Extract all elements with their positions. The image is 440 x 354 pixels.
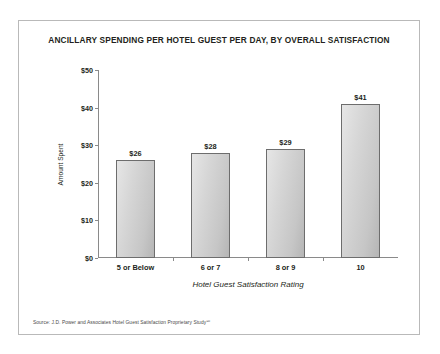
plot-area: $0$10$20$30$40$50 $265 or Below$286 or 7… (98, 70, 398, 258)
y-tick-label: $20 (81, 178, 93, 187)
bar-value-label: $29 (279, 138, 291, 147)
chart-figure: ANCILLARY SPENDING PER HOTEL GUEST PER D… (18, 20, 420, 335)
chart-title: ANCILLARY SPENDING PER HOTEL GUEST PER D… (19, 35, 419, 45)
y-tick-mark (95, 70, 98, 71)
bar-value-label: $41 (354, 93, 366, 102)
x-tick-label: 5 or Below (117, 263, 154, 272)
source-note: Source: J.D. Power and Associates Hotel … (33, 319, 211, 325)
bar[interactable] (341, 104, 380, 258)
y-tick-mark (95, 220, 98, 221)
x-tick-label: 8 or 9 (276, 263, 296, 272)
x-tick-mark (323, 258, 324, 261)
bar-group[interactable]: $265 or Below (116, 160, 155, 258)
x-axis-title: Hotel Guest Satisfaction Rating (98, 280, 398, 289)
y-tick-label: $0 (85, 254, 93, 263)
y-axis-line (98, 70, 99, 258)
x-tick-label: 10 (356, 263, 364, 272)
x-tick-label: 6 or 7 (201, 263, 221, 272)
bar-value-label: $26 (129, 149, 141, 158)
y-tick-mark (95, 183, 98, 184)
x-tick-mark (173, 258, 174, 261)
bar-value-label: $28 (204, 142, 216, 151)
bar-group[interactable]: $286 or 7 (191, 153, 230, 258)
bar[interactable] (116, 160, 155, 258)
bar[interactable] (191, 153, 230, 258)
y-tick-mark (95, 108, 98, 109)
bar[interactable] (266, 149, 305, 258)
y-tick-label: $50 (81, 66, 93, 75)
y-tick-mark (95, 258, 98, 259)
y-axis-title-text: Amount Spent (58, 143, 65, 185)
y-axis-title: Amount Spent (55, 70, 67, 258)
y-tick-label: $40 (81, 103, 93, 112)
x-tick-mark (248, 258, 249, 261)
y-tick-label: $30 (81, 141, 93, 150)
y-tick-label: $10 (81, 216, 93, 225)
bar-group[interactable]: $298 or 9 (266, 149, 305, 258)
bar-group[interactable]: $4110 (341, 104, 380, 258)
y-tick-mark (95, 145, 98, 146)
